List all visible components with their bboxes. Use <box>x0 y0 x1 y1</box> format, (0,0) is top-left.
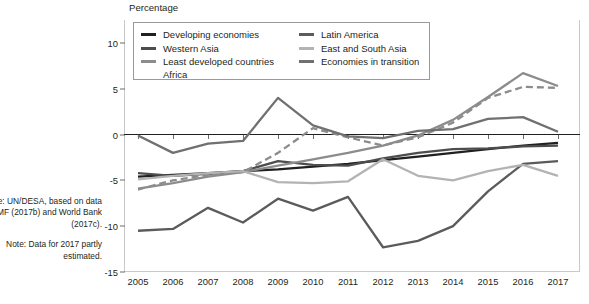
chart-legend: Developing economiesWestern AsiaLeast de… <box>133 22 430 80</box>
series-line-western-asia <box>138 146 558 176</box>
x-tick-label: 2014 <box>443 276 464 287</box>
x-tick-label: 2017 <box>548 276 569 287</box>
legend-swatch-icon <box>299 33 314 36</box>
legend-swatch-icon <box>141 73 156 76</box>
legend-item[interactable]: Developing economies <box>141 28 274 41</box>
legend-swatch-icon <box>141 47 156 50</box>
legend-item-label: Africa <box>163 69 187 80</box>
data-note: Note: Data for 2017 partly estimated. <box>0 239 102 262</box>
legend-swatch-icon <box>299 47 314 50</box>
chart-sidenotes: Source: UN/DESA, based on data from IMF … <box>0 196 102 262</box>
y-tick-label: -10 <box>104 221 118 232</box>
legend-swatch-icon <box>141 60 156 63</box>
legend-item[interactable]: Least developed countries <box>141 55 274 68</box>
x-tick-label: 2012 <box>373 276 394 287</box>
x-tick-label: 2008 <box>233 276 254 287</box>
x-tick-label: 2006 <box>163 276 184 287</box>
x-tick-label: 2005 <box>128 276 149 287</box>
legend-swatch-icon <box>299 60 314 63</box>
x-tick-label: 2013 <box>408 276 429 287</box>
legend-item-label: Latin America <box>321 29 379 40</box>
x-tick-label: 2016 <box>513 276 534 287</box>
x-tick-label: 2015 <box>478 276 499 287</box>
y-tick-label: 10 <box>108 37 118 48</box>
x-tick-label: 2007 <box>198 276 219 287</box>
legend-item-label: Western Asia <box>163 43 219 54</box>
chart-figure: Source: UN/DESA, based on data from IMF … <box>0 0 589 304</box>
legend-swatch-icon <box>141 33 156 36</box>
legend-item[interactable]: Africa <box>141 68 274 81</box>
series-line-least-developed-countries <box>138 73 558 188</box>
legend-item[interactable]: Latin America <box>299 28 419 41</box>
legend-item-label: Developing economies <box>163 29 259 40</box>
y-tick-label: -15 <box>104 267 118 278</box>
y-tick-label: 5 <box>113 83 118 94</box>
x-tick-label: 2009 <box>268 276 289 287</box>
legend-column-right: Latin AmericaEast and South AsiaEconomie… <box>299 28 419 68</box>
y-tick-label: -5 <box>110 175 118 186</box>
legend-item-label: Least developed countries <box>163 56 274 67</box>
x-tick-label: 2010 <box>303 276 324 287</box>
legend-item-label: East and South Asia <box>321 43 407 54</box>
legend-column-left: Developing economiesWestern AsiaLeast de… <box>141 28 274 82</box>
y-axis-title: Percentage <box>129 2 178 13</box>
source-note: Source: UN/DESA, based on data from IMF … <box>0 196 102 230</box>
legend-item[interactable]: Western Asia <box>141 41 274 54</box>
series-line-economies-in-transition <box>138 98 558 153</box>
x-tick-label: 2011 <box>338 276 358 287</box>
legend-item-label: Economies in transition <box>321 56 419 67</box>
legend-item[interactable]: East and South Asia <box>299 41 419 54</box>
legend-item[interactable]: Economies in transition <box>299 55 419 68</box>
y-tick-label: 0 <box>113 129 118 140</box>
